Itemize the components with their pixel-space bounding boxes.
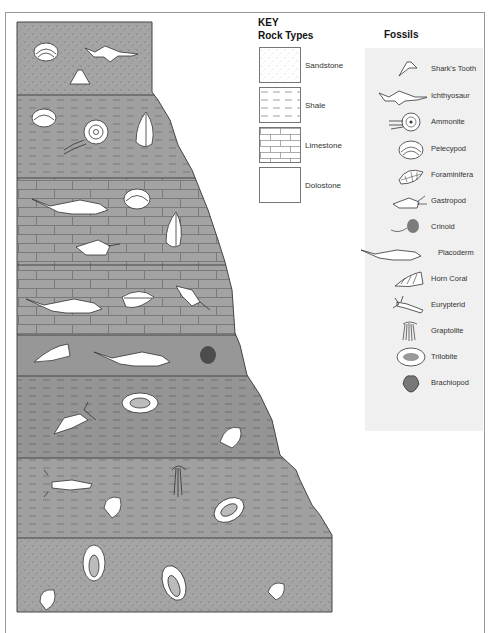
rock-label-limestone: Limestone: [305, 141, 342, 150]
fossil-label: Ammonite: [431, 117, 465, 126]
fossil-legend-item: Horn Coral: [365, 268, 483, 290]
fossil-legend-item: Pelecypod: [365, 138, 483, 160]
ichthyosaur-icon: [377, 85, 427, 107]
fossil-label: Shark's Tooth: [431, 64, 476, 73]
limestone-swatch: [259, 127, 301, 163]
fossil-label: Gastropod: [431, 196, 466, 205]
fossil-legend-item: Crinoid: [365, 216, 483, 238]
fossil-label: Crinoid: [431, 222, 455, 231]
fossil-legend-item: Placoderm: [365, 242, 483, 264]
sandstone-swatch: [259, 47, 301, 83]
layer-4-limestone: [17, 265, 337, 335]
fossil-legend-item: Eurypterid: [365, 294, 483, 316]
pelecypod-icon: [377, 138, 427, 160]
placoderm-icon: [359, 242, 425, 264]
fossil-label: Horn Coral: [431, 274, 467, 283]
fossil-label: Placoderm: [438, 248, 474, 257]
layer-6-shale: [17, 376, 337, 458]
pelecypod-icon: [34, 43, 58, 61]
crinoid-icon: [200, 346, 216, 364]
brachiopod-icon: [377, 372, 427, 394]
fossil-legend-item: Brachiopod: [365, 372, 483, 394]
fossil-legend-item: Trilobite: [365, 346, 483, 368]
trilobite-icon: [83, 545, 105, 581]
gastropod-icon: [377, 190, 427, 212]
foraminifera-icon: [377, 164, 427, 186]
trilobite-icon: [377, 346, 427, 368]
fossil-label: Ichthyosaur: [431, 91, 470, 100]
fossil-legend-item: Foraminifera: [365, 164, 483, 186]
ammonite-icon: [377, 111, 427, 133]
fossil-legend-item: Shark's Tooth: [365, 58, 483, 80]
crinoid-icon: [377, 216, 427, 238]
fossil-legend-item: Gastropod: [365, 190, 483, 212]
pelecypod-icon: [124, 189, 150, 209]
fossils-title: Fossils: [384, 29, 418, 40]
rock-label-shale: Shale: [305, 101, 325, 110]
fossil-label: Eurypterid: [431, 300, 465, 309]
fossil-label: Brachiopod: [431, 378, 469, 387]
eurypterid-icon: [377, 294, 427, 316]
horn-coral-icon: [377, 268, 427, 290]
fossil-label: Foraminifera: [431, 170, 473, 179]
dolostone-swatch: [259, 167, 301, 203]
trilobite-icon: [122, 393, 158, 413]
fossil-label: Trilobite: [431, 352, 457, 361]
fossil-legend-item: Ammonite: [365, 111, 483, 133]
fossil-legend-item: Ichthyosaur: [365, 85, 483, 107]
rock-label-sandstone: Sandstone: [305, 61, 343, 70]
key-title: KEY: [258, 17, 279, 28]
shark-tooth-icon: [377, 58, 427, 80]
layer-7-shale: [17, 458, 337, 538]
fossil-legend-panel: Shark's Tooth Ichthyosaur Ammonite Pelec…: [365, 48, 483, 431]
pelecypod-icon: [32, 109, 56, 127]
graptolite-icon: [377, 320, 427, 342]
fossil-legend-item: Graptolite: [365, 320, 483, 342]
rock-label-dolostone: Dolostone: [305, 181, 341, 190]
rock-types-title: Rock Types: [258, 30, 313, 41]
fossil-label: Graptolite: [431, 326, 464, 335]
fossil-label: Pelecypod: [431, 144, 466, 153]
shale-swatch: [259, 87, 301, 123]
